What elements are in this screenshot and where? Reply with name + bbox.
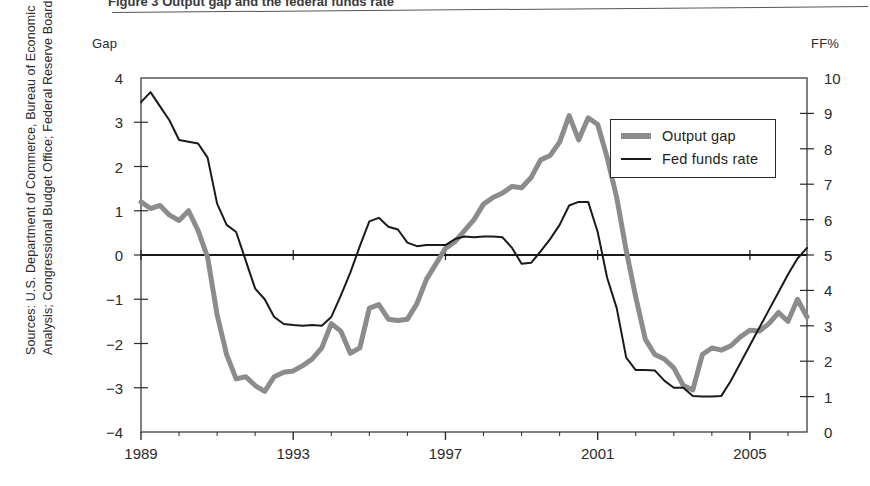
chart-legend: Output gap Fed funds rate [610,119,776,178]
chart-plot-area [0,0,870,486]
legend-label-output-gap: Output gap [662,128,736,144]
legend-swatch-output-gap-icon [621,133,651,139]
legend-label-fed-funds-rate: Fed funds rate [662,151,758,167]
legend-swatch-fed-funds-icon [621,158,651,160]
figure-output-gap-fed-funds: Figure 3 Output gap and the federal fund… [0,0,870,486]
legend-item-output-gap: Output gap [621,125,736,147]
legend-item-fed-funds-rate: Fed funds rate [621,148,758,170]
